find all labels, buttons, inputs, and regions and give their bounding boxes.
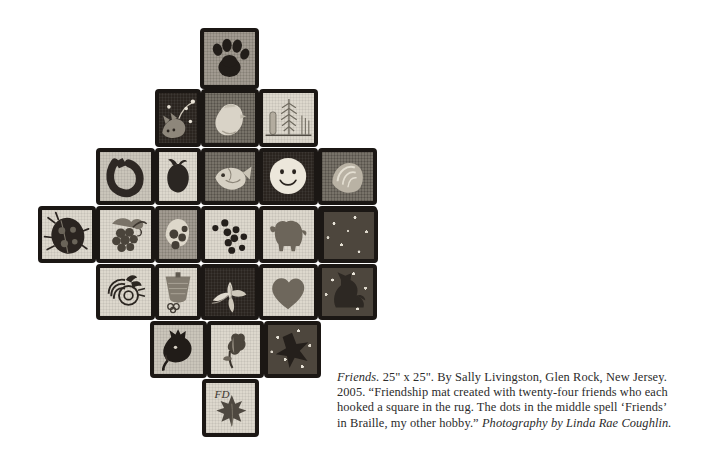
rug-square-lily-flower: [201, 264, 259, 320]
caption-credit: Photography by Linda Rae Coughlin.: [482, 416, 672, 430]
rug-square-cat-silhouette: [318, 264, 377, 320]
heart-icon: [263, 268, 314, 316]
wheat-sheaf-icon: [263, 93, 314, 143]
rug-square-ladybug: [38, 206, 96, 263]
horse-head-icon: [154, 325, 203, 374]
shell-icon: [322, 152, 373, 201]
chick-icon: [205, 93, 255, 143]
lily-flower-icon: [205, 268, 255, 316]
bison-icon: [263, 210, 314, 259]
braille-dots-icon: [205, 210, 255, 259]
bee-spiral-icon: [100, 268, 151, 316]
rug-square-maple-leaf-initials: FD: [202, 379, 259, 437]
dark-field-icon: [324, 212, 374, 259]
rug-square-berries: [155, 206, 201, 263]
ladybug-icon: [42, 210, 92, 259]
rug-square-star-speckle: [264, 321, 321, 378]
cat-silhouette-icon: [322, 268, 373, 316]
pomegranate-icon: [159, 152, 197, 201]
paw-print-icon: [204, 32, 255, 85]
rug-square-heart: [259, 264, 318, 320]
rug-square-braille-dots: [201, 206, 259, 263]
grapes-icon: [100, 210, 151, 259]
caption-byline: By Sally Livingston, Glen Rock, New Jers…: [437, 370, 667, 384]
rug-square-bison: [259, 206, 318, 263]
svg-text:FD: FD: [214, 388, 230, 400]
rug-square-tulip: [207, 321, 264, 378]
cat-with-vine-icon: [159, 93, 197, 143]
rug-square-bee-spiral: [96, 264, 155, 320]
rug-square-horse-head: [150, 321, 207, 378]
rug-square-chick: [201, 89, 259, 147]
smiley-face-icon: [263, 152, 314, 201]
caption-year: 2005.: [337, 385, 365, 399]
rug-square-horseshoe: [96, 148, 155, 205]
maple-leaf-initials-icon: FD: [206, 383, 255, 433]
basket-icon: [159, 268, 197, 316]
artwork-caption: Friends. 25" x 25". By Sally Livingston,…: [337, 370, 679, 431]
rug-square-dark-field: [320, 208, 378, 263]
caption-title: Friends.: [337, 370, 379, 384]
rug-square-grapes: [96, 206, 155, 263]
berries-icon: [159, 210, 197, 259]
rug-square-shell: [318, 148, 377, 205]
tulip-icon: [211, 325, 260, 374]
rug-square-basket: [155, 264, 201, 320]
rug-square-wheat-sheaf: [259, 89, 318, 147]
fish-icon: [205, 152, 255, 201]
rug-square-smiley-face: [259, 148, 318, 205]
star-speckle-icon: [268, 325, 317, 374]
rug-square-paw-print: [200, 28, 259, 89]
caption-dimensions: 25" x 25".: [383, 370, 434, 384]
page-canvas: FD Friends. 25" x 25". By Sally Livingst…: [0, 0, 714, 464]
rug-square-pomegranate: [155, 148, 201, 205]
rug-square-cat-with-vine: [155, 89, 201, 147]
rug-square-fish: [201, 148, 259, 205]
horseshoe-icon: [100, 152, 151, 201]
